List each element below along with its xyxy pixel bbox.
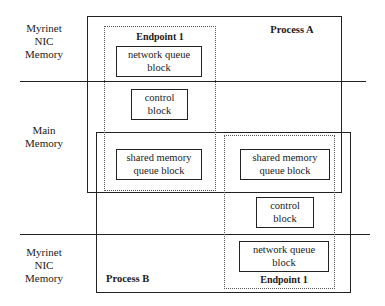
process-a-shared-memory-queue-block: shared memory queue block bbox=[116, 149, 202, 180]
process-b-network-queue-block: network queue block bbox=[239, 241, 329, 272]
process-b-label: Process B bbox=[106, 273, 156, 284]
process-b-control-block: control block bbox=[256, 197, 314, 228]
region-label-bottom-nic-memory: Myrinet NIC Memory bbox=[10, 246, 78, 285]
process-a-control-block: control block bbox=[131, 89, 188, 120]
region-label-main-memory: Main Memory bbox=[10, 124, 78, 150]
process-a-endpoint-label: Endpoint 1 bbox=[130, 31, 190, 42]
process-b-shared-memory-queue-block: shared memory queue block bbox=[240, 149, 330, 180]
process-b-endpoint-label: Endpoint 1 bbox=[254, 274, 314, 285]
process-a-label: Process A bbox=[262, 24, 322, 35]
region-label-top-nic-memory: Myrinet NIC Memory bbox=[10, 22, 78, 61]
process-a-network-queue-block: network queue block bbox=[116, 46, 202, 77]
